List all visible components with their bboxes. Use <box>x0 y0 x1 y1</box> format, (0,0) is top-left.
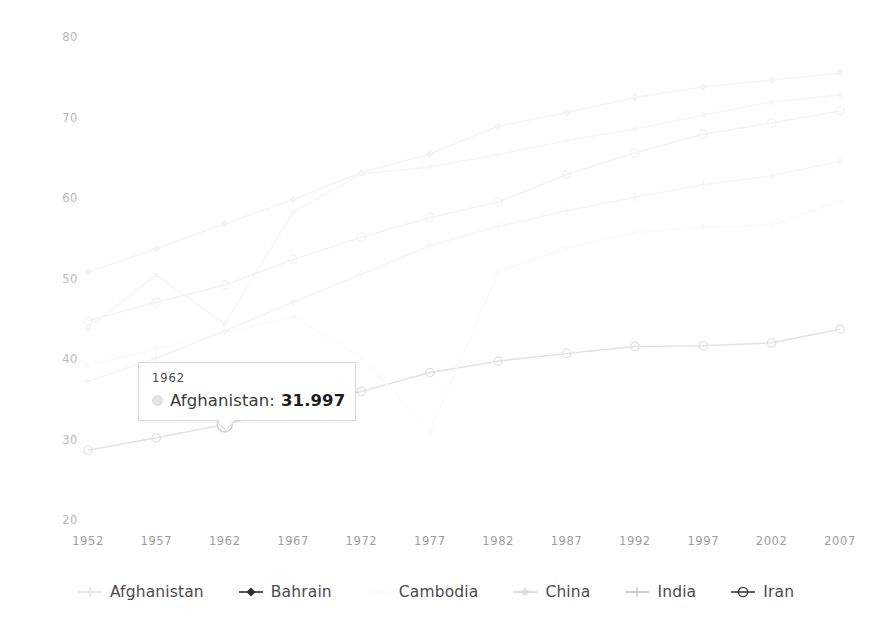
x-axis-tick-label: 1962 <box>209 536 241 548</box>
tooltip-series-swatch-icon <box>152 395 163 406</box>
legend-item-label: Afghanistan <box>110 583 204 601</box>
circle-dot-icon <box>730 585 756 599</box>
x-axis-tick-label: 1982 <box>482 536 514 548</box>
tooltip: 1962 Afghanistan: 31.997 <box>138 362 356 421</box>
legend-item-iran[interactable]: Iran <box>730 583 794 601</box>
legend-item-label: Cambodia <box>399 583 479 601</box>
plus-icon <box>77 585 103 599</box>
dot-icon <box>366 585 392 599</box>
x-axis-tick-label: 1997 <box>687 536 719 548</box>
legend-item-afghanistan[interactable]: Afghanistan <box>77 583 204 601</box>
x-axis-tick-label: 1987 <box>551 536 583 548</box>
legend-item-label: Iran <box>763 583 794 601</box>
line-chart: 80706050403020 1952195719621967197219771… <box>0 0 871 632</box>
legend-item-cambodia[interactable]: Cambodia <box>366 583 479 601</box>
x-axis-tick-label: 1972 <box>346 536 378 548</box>
legend-item-label: Bahrain <box>271 583 332 601</box>
x-axis-tick-label: 1967 <box>277 536 309 548</box>
tooltip-value: 31.997 <box>281 391 345 410</box>
tooltip-title: 1962 <box>152 372 341 386</box>
plus-icon <box>624 585 650 599</box>
star-icon <box>512 585 538 599</box>
legend-item-label: India <box>657 583 696 601</box>
tooltip-pointer-icon <box>217 419 235 430</box>
x-axis-tick-label: 2007 <box>824 536 856 548</box>
x-axis-tick-label: 1977 <box>414 536 446 548</box>
diamond-icon <box>238 585 264 599</box>
legend-item-bahrain[interactable]: Bahrain <box>238 583 332 601</box>
legend-item-india[interactable]: India <box>624 583 696 601</box>
x-axis-tick-label: 2002 <box>756 536 788 548</box>
tooltip-row: Afghanistan: 31.997 <box>152 391 341 410</box>
legend-item-label: China <box>545 583 590 601</box>
tooltip-series-label: Afghanistan: <box>170 391 275 410</box>
x-axis-tick-label: 1957 <box>141 536 173 548</box>
legend-item-china[interactable]: China <box>512 583 590 601</box>
x-axis-tick-label: 1992 <box>619 536 651 548</box>
legend: AfghanistanBahrainCambodiaChinaIndiaIran <box>0 583 871 601</box>
x-axis-tick-label: 1952 <box>72 536 104 548</box>
x-axis: 1952195719621967197219771982198719921997… <box>0 0 871 632</box>
